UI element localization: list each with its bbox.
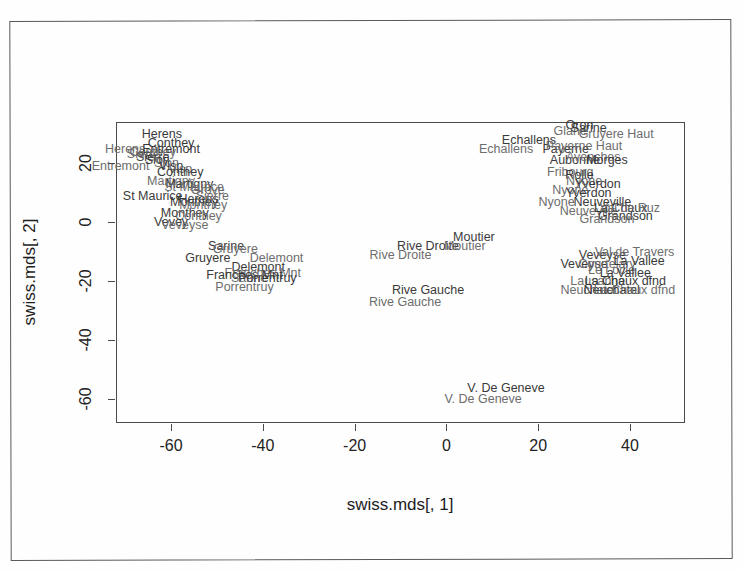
y-axis-tick: [108, 340, 115, 341]
x-axis-tick-label: 20: [529, 437, 547, 455]
point-label: V. De Geneve: [444, 393, 521, 406]
scanned-page: HerensHerensContheyContheyEntremontEntre…: [0, 0, 742, 572]
x-axis-tick: [538, 424, 539, 431]
y-axis-label: swiss.mds[, 2]: [20, 219, 40, 326]
x-axis-tick: [355, 424, 356, 431]
y-axis-tick-label: 0: [77, 218, 95, 227]
y-axis-tick-label: -40: [77, 329, 95, 352]
scatter-plot: HerensHerensContheyContheyEntremontEntre…: [0, 0, 742, 572]
x-axis-tick-label: 40: [621, 437, 639, 455]
x-axis-tick-label: -20: [343, 437, 366, 455]
x-axis-tick: [171, 424, 172, 431]
x-axis-label: swiss.mds[, 1]: [347, 495, 454, 515]
point-label: Moutier: [444, 240, 486, 253]
x-axis-tick: [446, 424, 447, 431]
x-axis-tick: [630, 424, 631, 431]
y-axis-tick: [108, 222, 115, 223]
point-label: Veveyse: [161, 219, 208, 232]
y-axis-tick: [108, 163, 115, 164]
x-axis-tick-label: -40: [251, 437, 274, 455]
point-label: Grandson: [580, 213, 635, 226]
x-axis-tick-label: 0: [442, 437, 451, 455]
y-axis-tick-label: 20: [77, 154, 95, 172]
point-label: Echallens: [479, 142, 533, 155]
point-label: Gruyere: [185, 251, 230, 264]
x-axis-tick-label: -60: [160, 437, 183, 455]
y-axis-tick: [108, 281, 115, 282]
point-label: Rive Droite: [370, 249, 432, 262]
point-label: Sierre: [196, 190, 229, 203]
plot-data-area: HerensHerensContheyContheyEntremontEntre…: [116, 122, 685, 423]
point-label: La Chaux dfnd: [594, 284, 675, 297]
y-axis-tick: [108, 399, 115, 400]
y-axis-tick-label: -60: [77, 388, 95, 411]
y-axis-tick-label: -20: [77, 270, 95, 293]
point-label: Porrentruy: [215, 281, 273, 294]
point-label: Rive Gauche: [369, 296, 441, 309]
x-axis-tick: [263, 424, 264, 431]
